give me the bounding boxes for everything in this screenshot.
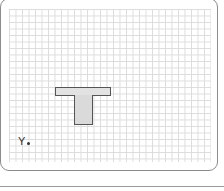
- canvas-panel: [0, 0, 218, 171]
- grid-canvas[interactable]: [9, 9, 211, 162]
- bottom-divider: [0, 186, 224, 187]
- y-axis-label: Y: [18, 135, 25, 147]
- origin-dot-icon: [27, 142, 30, 145]
- t-shape-stem[interactable]: [74, 95, 93, 125]
